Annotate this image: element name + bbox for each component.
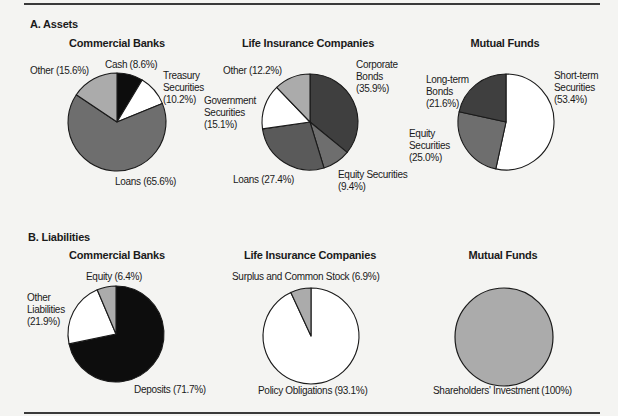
label-other: Other (12.2%) — [223, 65, 282, 77]
label-line: Securities — [554, 82, 598, 94]
label-policy-obligations: Policy Obligations (93.1%) — [258, 385, 367, 397]
pie-charts — [0, 0, 618, 416]
label-line: Bonds — [426, 86, 469, 98]
label-loans: Loans (27.4%) — [233, 174, 294, 186]
pie-liabilities-mutual-funds — [455, 288, 553, 386]
label-line: Other — [27, 292, 65, 304]
label-line: Treasury — [163, 70, 204, 82]
label-line: Long-term — [426, 74, 469, 86]
label-loans: Loans (65.6%) — [115, 176, 176, 188]
label-cash: Cash (8.6%) — [105, 59, 157, 71]
label-corporate-bonds: Corporate Bonds (35.9%) — [356, 59, 398, 95]
pie-liabilities-life-insurance — [263, 288, 359, 384]
label-line: (25.0%) — [409, 152, 450, 164]
label-line: Securities — [409, 140, 450, 152]
label-line: (35.9%) — [356, 83, 398, 95]
label-line: (53.4%) — [554, 94, 598, 106]
label-short-term-securities: Short-term Securities (53.4%) — [554, 70, 598, 106]
label-equity-securities: Equity Securities (9.4%) — [338, 169, 407, 193]
label-other: Other (15.6%) — [30, 65, 89, 77]
pie-assets-mutual-funds — [458, 74, 554, 170]
label-line: Securities — [204, 107, 256, 119]
pie-slice — [455, 288, 553, 386]
pie-liabilities-commercial-banks — [68, 286, 164, 382]
label-line: Short-term — [554, 70, 598, 82]
label-line: Corporate — [356, 59, 398, 71]
label-government-securities: Government Securities (15.1%) — [204, 95, 256, 131]
label-line: Equity — [409, 128, 450, 140]
label-line: (21.9%) — [27, 316, 65, 328]
label-line: Government — [204, 95, 256, 107]
label-deposits: Deposits (71.7%) — [134, 384, 206, 396]
pie-assets-commercial-banks — [68, 73, 166, 171]
label-equity-securities: Equity Securities (25.0%) — [409, 128, 450, 164]
label-line: Equity Securities — [338, 169, 407, 181]
label-surplus-common-stock: Surplus and Common Stock (6.9%) — [232, 271, 379, 283]
label-line: Bonds — [356, 71, 398, 83]
label-shareholders-investment: Shareholders' Investment (100%) — [433, 385, 572, 397]
label-treasury: Treasury Securities (10.2%) — [163, 70, 204, 106]
label-line: Securities — [163, 82, 204, 94]
label-line: Liabilities — [27, 304, 65, 316]
label-line: (9.4%) — [338, 181, 407, 193]
label-line: (21.6%) — [426, 98, 469, 110]
label-line: (10.2%) — [163, 94, 204, 106]
pie-assets-life-insurance — [262, 74, 358, 170]
label-equity: Equity (6.4%) — [86, 271, 142, 283]
label-long-term-bonds: Long-term Bonds (21.6%) — [426, 74, 469, 110]
label-other-liabilities: Other Liabilities (21.9%) — [27, 292, 65, 328]
label-line: (15.1%) — [204, 119, 256, 131]
